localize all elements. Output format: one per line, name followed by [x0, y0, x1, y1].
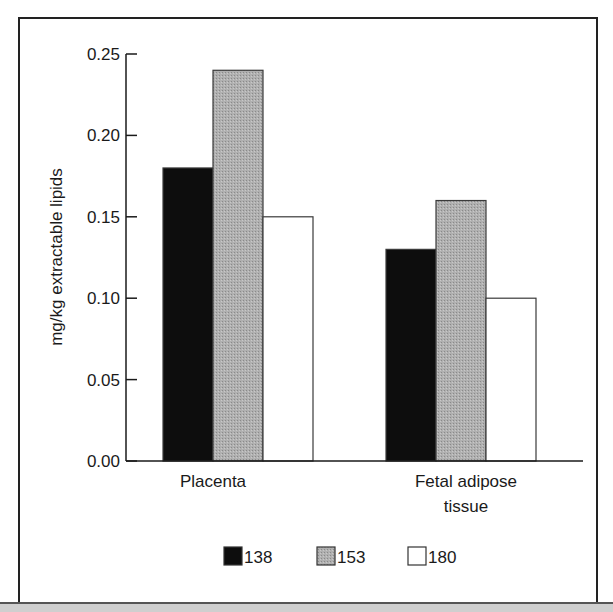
bar-138-0: [163, 168, 213, 461]
y-tick-label: 0.25: [87, 45, 120, 64]
y-tick-label: 0.00: [87, 452, 120, 471]
y-tick-label: 0.10: [87, 289, 120, 308]
category-label: Placenta: [180, 472, 247, 491]
legend-label-138: 138: [244, 548, 272, 567]
legend-swatch-153: [317, 547, 335, 565]
legend: 138153180: [224, 547, 456, 567]
bar-180-1: [486, 298, 536, 461]
y-axis-label: mg/kg extractable lipids: [47, 168, 66, 346]
bar-chart: 0.000.050.100.150.200.25 PlacentaFetal a…: [0, 0, 613, 612]
bars: [163, 70, 536, 461]
category-label: tissue: [444, 497, 488, 516]
legend-swatch-138: [224, 547, 242, 565]
y-axis: 0.000.050.100.150.200.25: [87, 45, 137, 471]
y-tick-label: 0.05: [87, 371, 120, 390]
bar-180-0: [263, 217, 313, 461]
category-label: Fetal adipose: [415, 472, 517, 491]
bar-153-0: [213, 70, 263, 461]
x-axis: PlacentaFetal adiposetissue: [126, 461, 583, 516]
bar-138-1: [386, 249, 436, 461]
legend-swatch-180: [408, 547, 426, 565]
y-tick-label: 0.15: [87, 208, 120, 227]
legend-label-153: 153: [337, 548, 365, 567]
bar-153-1: [436, 201, 486, 461]
y-tick-label: 0.20: [87, 126, 120, 145]
legend-label-180: 180: [428, 548, 456, 567]
